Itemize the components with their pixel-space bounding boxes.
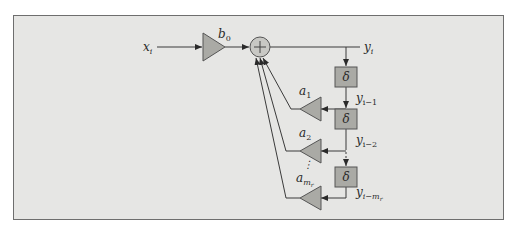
ellipsis: ⋮ [303,159,313,170]
output-label: yi [363,40,374,56]
gain-am-triangle [300,186,321,210]
filter-diagram: δ δ δ xi b0 yi a1 a2 amr yi−1 yi−2 yi−mr… [0,0,520,236]
tap2-label: yi−2 [355,133,377,149]
delay-label-m: δ [342,170,349,184]
feedback-am-line [256,58,300,198]
delay-label-2: δ [342,112,349,126]
a2-label: a2 [299,126,311,142]
feedback-a1-line [263,58,300,109]
delay-label-1: δ [342,70,349,84]
tap1-label: yi−1 [355,91,377,107]
am-label: amr [296,171,315,188]
gain-a1-triangle [300,97,321,121]
a1-label: a1 [299,84,311,100]
tapm-label: yi−mr [355,185,384,202]
input-label: xi [143,40,153,56]
b0-label: b0 [218,27,231,43]
tapm-line [321,187,346,198]
